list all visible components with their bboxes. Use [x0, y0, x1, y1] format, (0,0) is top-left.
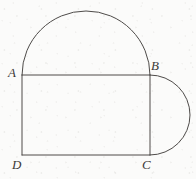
vertex-label-c: C [142, 158, 151, 171]
semicircle-arc-on-bc [150, 75, 190, 155]
geometry-figure: A B C D [0, 0, 196, 179]
vertex-label-d: D [12, 158, 21, 171]
semicircle-arc-on-ab [22, 11, 150, 75]
figure-canvas [0, 0, 196, 179]
vertex-label-b: B [151, 59, 159, 72]
vertex-label-a: A [8, 66, 16, 79]
